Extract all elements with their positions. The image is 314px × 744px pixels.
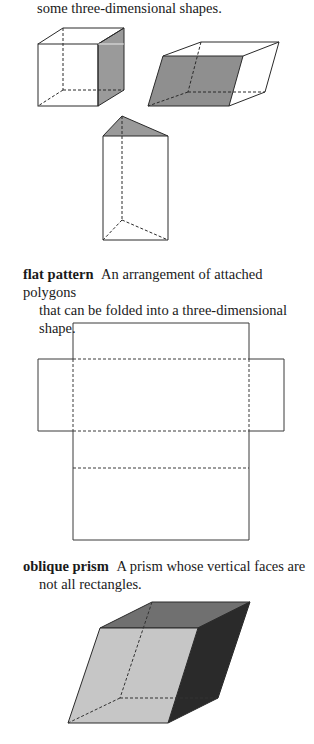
flat-pattern-net-figure <box>38 323 284 540</box>
entry-term: flat pattern <box>23 266 93 282</box>
figures-canvas <box>0 0 314 744</box>
triangular-prism-figure <box>103 116 168 240</box>
oblique-prism-figure <box>68 602 250 723</box>
cube-figure <box>38 28 124 106</box>
entry-definition-line1: A prism whose vertical faces are <box>116 558 305 574</box>
slanted-prism-figure <box>148 42 279 106</box>
entry-term: oblique prism <box>23 558 109 574</box>
glossary-entry-flat-pattern: flat pattern An arrangement of attached … <box>23 265 313 337</box>
entry-definition-line2: not all rectangles. <box>23 575 313 593</box>
glossary-entry-oblique-prism: oblique prism A prism whose vertical fac… <box>23 557 313 593</box>
entry-definition-line2: that can be folded into a three-dimensio… <box>23 301 313 337</box>
